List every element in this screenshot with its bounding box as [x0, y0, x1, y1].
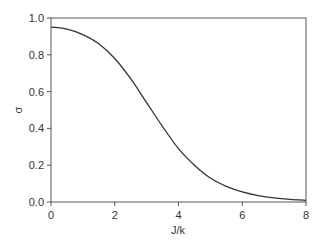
y-axis-title: σ: [12, 106, 24, 113]
y-tick-label: 0.8: [29, 49, 44, 61]
x-tick-label: 2: [112, 209, 118, 221]
x-tick-label: 6: [239, 209, 245, 221]
x-tick-label: 4: [175, 209, 181, 221]
sigma-curve: [51, 27, 306, 200]
plot-frame: [51, 18, 306, 202]
y-tick-label: 0.6: [29, 86, 44, 98]
y-tick-label: 1.0: [29, 12, 44, 24]
chart: 0.00.20.40.60.81.0 02468 J/k σ: [0, 0, 322, 247]
x-axis-ticks: 02468: [48, 202, 309, 221]
x-axis-title: J/k: [171, 224, 186, 236]
x-tick-label: 8: [303, 209, 309, 221]
y-tick-label: 0.2: [29, 159, 44, 171]
y-tick-label: 0.4: [29, 122, 44, 134]
x-tick-label: 0: [48, 209, 54, 221]
y-tick-label: 0.0: [29, 196, 44, 208]
y-axis-ticks: 0.00.20.40.60.81.0: [29, 12, 51, 208]
